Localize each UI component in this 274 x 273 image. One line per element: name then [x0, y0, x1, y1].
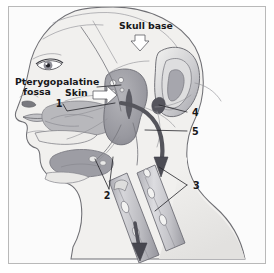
foramen-4	[120, 88, 124, 92]
label-3: 3	[193, 180, 200, 191]
label-2: 2	[104, 190, 111, 201]
label-5: 5	[192, 126, 199, 137]
eye-highlight	[45, 63, 47, 65]
figure-frame: Skull base Pterygopalatine fossa Skin 1 …	[8, 6, 266, 264]
foramen-2	[118, 77, 123, 82]
label-4: 4	[192, 107, 199, 118]
anatomical-diagram: Skull base Pterygopalatine fossa Skin 1 …	[9, 7, 265, 263]
label-1: 1	[56, 98, 63, 109]
gland-duct-2	[100, 161, 106, 166]
label-skin: Skin	[65, 87, 88, 98]
label-skull-base: Skull base	[119, 20, 173, 31]
figure-root: Skull base Pterygopalatine fossa Skin 1 …	[0, 0, 274, 273]
label-pterygopalatine-line2: fossa	[23, 86, 51, 97]
